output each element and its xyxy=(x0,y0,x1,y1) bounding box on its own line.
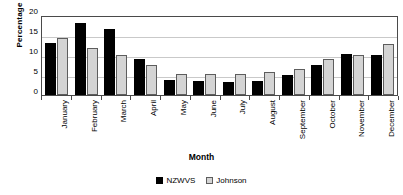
bar-group xyxy=(338,17,368,95)
bar-nzwvs-april xyxy=(134,59,145,95)
y-axis-tick-labels: 05101520 xyxy=(18,12,38,96)
x-axis-title: Month xyxy=(0,152,403,162)
bar-nzwvs-february xyxy=(75,23,86,95)
bar-johnson-march xyxy=(116,55,127,95)
bar-johnson-october xyxy=(323,59,334,95)
legend-label: NZWVS xyxy=(166,176,195,185)
x-tick-label: July xyxy=(238,100,247,114)
bar-johnson-september xyxy=(294,69,305,95)
bar-johnson-june xyxy=(205,74,216,95)
legend: NZWVSJohnson xyxy=(0,176,403,185)
bar-johnson-january xyxy=(57,38,68,95)
x-tick-label: August xyxy=(268,100,277,125)
bar-nzwvs-november xyxy=(341,54,352,95)
x-tick-label: December xyxy=(387,100,396,137)
bar-nzwvs-may xyxy=(164,80,175,95)
bar-group xyxy=(131,17,161,95)
legend-item-johnson: Johnson xyxy=(206,176,246,185)
bar-nzwvs-september xyxy=(282,75,293,95)
bar-group xyxy=(279,17,309,95)
x-tick-label: May xyxy=(179,100,188,115)
legend-swatch-icon xyxy=(206,177,213,184)
bar-group xyxy=(72,17,102,95)
bar-nzwvs-december xyxy=(371,55,382,95)
y-tick-label: 20 xyxy=(18,8,38,16)
x-tick-label: October xyxy=(328,100,337,128)
bar-johnson-april xyxy=(146,65,157,95)
bar-nzwvs-january xyxy=(45,43,56,95)
bar-johnson-november xyxy=(353,55,364,95)
legend-label: Johnson xyxy=(216,176,246,185)
x-axis-tick-labels: JanuaryFebruaryMarchAprilMayJuneJulyAugu… xyxy=(41,100,398,148)
bar-johnson-february xyxy=(87,48,98,95)
bar-group xyxy=(101,17,131,95)
x-tick-label: February xyxy=(90,100,99,132)
x-tick-label: November xyxy=(357,100,366,137)
x-tick-label: June xyxy=(209,100,218,117)
bar-nzwvs-march xyxy=(104,29,115,95)
bar-groups xyxy=(42,17,397,95)
bar-nzwvs-june xyxy=(193,81,204,95)
y-tick-label: 5 xyxy=(18,68,38,76)
y-tick-label: 10 xyxy=(18,48,38,56)
x-tick-label: March xyxy=(119,100,128,122)
x-tick-label: January xyxy=(60,100,69,128)
plot-area xyxy=(41,16,398,96)
x-tick-mark xyxy=(398,96,399,100)
bar-johnson-july xyxy=(235,74,246,95)
legend-swatch-icon xyxy=(156,177,163,184)
bar-group xyxy=(190,17,220,95)
bar-group xyxy=(308,17,338,95)
legend-item-nzwvs: NZWVS xyxy=(156,176,195,185)
bar-group xyxy=(42,17,72,95)
x-tick-label: September xyxy=(298,100,307,139)
bar-group xyxy=(160,17,190,95)
y-tick-label: 15 xyxy=(18,28,38,36)
bar-nzwvs-october xyxy=(311,65,322,95)
bar-group xyxy=(249,17,279,95)
bar-nzwvs-july xyxy=(223,82,234,95)
x-tick-label: April xyxy=(149,100,158,116)
bar-chart: Percentage 05101520 JanuaryFebruaryMarch… xyxy=(0,0,403,195)
bar-group xyxy=(367,17,397,95)
y-tick-label: 0 xyxy=(18,88,38,96)
bar-johnson-may xyxy=(176,74,187,95)
bar-group xyxy=(219,17,249,95)
bar-nzwvs-august xyxy=(252,81,263,95)
bar-johnson-december xyxy=(383,44,394,95)
bar-johnson-august xyxy=(264,72,275,95)
